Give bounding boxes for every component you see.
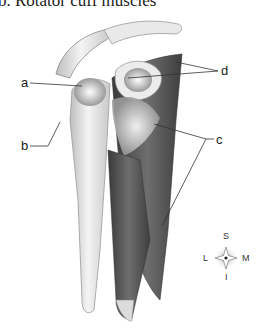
acromion <box>104 21 181 44</box>
compass-medial: M <box>242 254 250 263</box>
label-b: b <box>21 139 28 152</box>
label-d: d <box>221 64 228 77</box>
clavicle <box>56 30 111 78</box>
leader-b <box>30 122 60 146</box>
compass-superior: S <box>223 232 229 241</box>
compass-lateral: L <box>203 254 208 263</box>
label-c: c <box>216 133 223 146</box>
compass-rose <box>214 246 238 270</box>
compass-inferior: I <box>225 273 228 282</box>
leader-a <box>30 83 82 86</box>
leader-d2 <box>176 62 218 71</box>
humerus-shaft <box>70 79 110 313</box>
label-a: a <box>21 76 28 89</box>
shoulder-illustration <box>0 0 277 331</box>
